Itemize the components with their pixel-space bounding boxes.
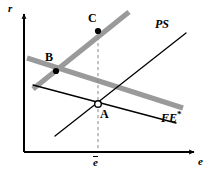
fe-curve-label: FE* — [161, 110, 182, 124]
point-c-label: C — [88, 12, 97, 24]
x-axis-label: e — [198, 156, 203, 167]
diagram-canvas — [0, 0, 215, 177]
fe-curve-label-superscript: * — [177, 109, 182, 119]
point-b-label: B — [45, 51, 53, 63]
point-b-marker — [53, 68, 59, 74]
point-c-marker — [95, 28, 101, 34]
gray-falling-schedule — [27, 58, 183, 108]
fe-curve-label-text: FE — [161, 111, 177, 125]
y-axis-label: r — [8, 3, 12, 14]
ps-curve-label: PS — [155, 18, 169, 30]
point-a-label: A — [100, 108, 109, 120]
economics-diagram: r e e PS FE* C B A — [0, 0, 215, 177]
ebar-tick-text: e — [93, 156, 98, 168]
ebar-tick-label: e — [93, 156, 98, 168]
